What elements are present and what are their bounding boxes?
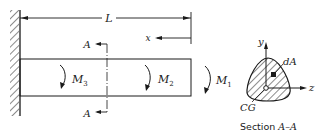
length-dimension: L	[20, 12, 191, 44]
area-element-label: dA	[283, 56, 297, 67]
section-cut-line: A A	[82, 39, 107, 119]
moment-m1: M1	[204, 66, 232, 94]
arrowhead-left-icon	[21, 16, 28, 20]
curved-arrow-icon	[205, 66, 210, 91]
arrowhead-left-icon	[155, 36, 162, 40]
moment-m2: M2	[145, 65, 174, 91]
arrowhead-right-icon	[183, 16, 190, 20]
section-label-bottom: A	[82, 108, 90, 119]
moment-m3: M3	[60, 65, 88, 89]
moment-m3-label: M3	[71, 73, 88, 88]
length-label: L	[104, 12, 112, 25]
section-caption: Section A–A	[240, 121, 297, 132]
section-label-top: A	[82, 39, 90, 50]
beam-diagram: L x A A M3 M2 M1	[0, 0, 328, 140]
fixed-wall-support	[10, 10, 20, 116]
cross-section: y z dA CG Section A–A	[240, 36, 315, 132]
arrowhead-right-icon	[300, 86, 307, 90]
x-label: x	[145, 33, 150, 43]
area-element	[271, 72, 276, 77]
centroid-label: CG	[240, 102, 256, 113]
arrowhead-up-icon	[264, 42, 268, 49]
x-coordinate-arrow: x	[145, 33, 191, 43]
arrowhead-left-icon	[95, 42, 101, 46]
z-axis-label: z	[308, 82, 315, 93]
moment-m1-label: M1	[215, 74, 232, 89]
arrowhead-left-icon	[95, 110, 101, 114]
centroid-marker	[264, 86, 269, 91]
moment-m2-label: M2	[157, 73, 174, 88]
y-axis-label: y	[257, 36, 264, 47]
